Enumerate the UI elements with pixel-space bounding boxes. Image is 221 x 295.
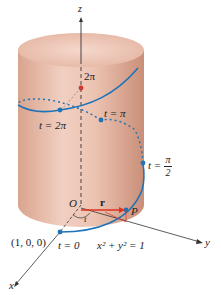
point-t-2pi: [58, 108, 63, 113]
point-t-pi-over-2: [141, 161, 146, 166]
t-pi-over-2-label: t = π2: [148, 155, 172, 178]
origin-label: O: [69, 198, 77, 209]
point-P-label: P: [131, 206, 138, 217]
t-2pi-label: t = 2π: [39, 120, 66, 131]
t-0-label: t = 0: [58, 240, 79, 251]
z-axis-label: z: [78, 4, 82, 14]
y-axis-label: y: [205, 237, 210, 248]
point-t0: [58, 230, 63, 235]
point-t-pi: [99, 118, 104, 123]
t-pi-label: t = π: [104, 108, 126, 119]
vector-r-label: r: [100, 197, 105, 208]
point-1-0-0-label: (1, 0, 0): [11, 237, 46, 248]
cylinder-equation-label: x² + y² = 1: [97, 240, 145, 251]
angle-t-label: t: [84, 215, 87, 224]
x-axis-label: x: [9, 280, 14, 291]
z-height-label: 2π: [84, 71, 95, 82]
